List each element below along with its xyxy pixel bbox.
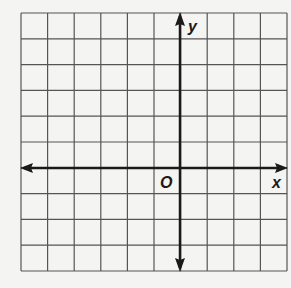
y-axis-down-arrow-icon [175, 258, 185, 272]
coordinate-plane: y x O [0, 0, 291, 288]
y-axis-label: y [187, 18, 198, 35]
y-axis-up-arrow-icon [175, 12, 185, 26]
grid-lines [21, 13, 287, 271]
x-axis-label: x [271, 174, 282, 191]
origin-label: O [160, 174, 173, 191]
